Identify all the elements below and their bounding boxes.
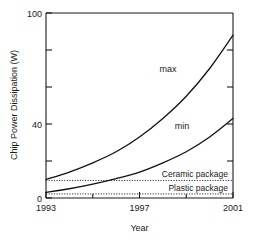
annotation-label-ceramic: Ceramic package	[162, 169, 228, 179]
y-axis-ticks-right	[227, 50, 233, 161]
y-axis-title: Chip Power Dissipation (W)	[9, 50, 19, 160]
series-curve-min	[46, 118, 233, 192]
annotation-label-plastic: Plastic package	[168, 183, 228, 193]
y-axis-ticks	[46, 13, 52, 198]
y-tick-label-40: 40	[32, 120, 42, 130]
series-curve-max	[46, 35, 233, 179]
y-tick-label-100: 100	[27, 9, 42, 19]
x-tick-label-1993: 1993	[36, 203, 56, 213]
y-tick-label-0: 0	[37, 194, 42, 204]
x-tick-label-1997: 1997	[129, 203, 149, 213]
series-label-max: max	[159, 64, 177, 74]
chart-canvas: 100 40 0 1993 1997 2001 Year Chip Power …	[0, 0, 254, 243]
chart-figure: 100 40 0 1993 1997 2001 Year Chip Power …	[0, 0, 254, 243]
x-tick-label-2001: 2001	[223, 203, 243, 213]
series-label-min: min	[175, 121, 190, 131]
x-axis-title: Year	[130, 223, 148, 233]
